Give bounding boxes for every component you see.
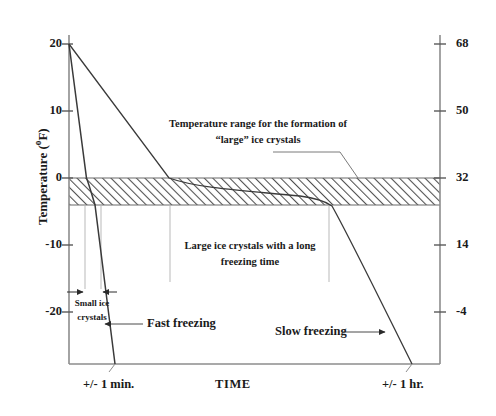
fast-freezing-label: Fast freezing	[147, 316, 216, 331]
chart-canvas	[0, 0, 496, 416]
right-tick-label-50: 50	[456, 103, 469, 118]
freezing-curve-figure: Temperature (oF) 20 10 0 -10 -20 68 50 3…	[0, 0, 496, 416]
left-axis-ticks	[62, 44, 73, 312]
left-tick-label-20: 20	[32, 36, 62, 51]
left-tick-label-minus10: -10	[28, 237, 62, 252]
large-crystals-annotation-line1: Large ice crystals with a long	[150, 240, 350, 252]
band-label-leader	[273, 152, 358, 178]
right-tick-label-14: 14	[456, 237, 469, 252]
band-annotation-line1: Temperature range for the formation of	[140, 118, 376, 130]
large-crystals-annotation-line2: freezing time	[150, 256, 350, 268]
x-axis-right-label: +/- 1 hr.	[382, 377, 424, 392]
x-axis-title: TIME	[215, 377, 251, 392]
x-axis-left-label: +/- 1 min.	[83, 377, 134, 392]
left-tick-label-10: 10	[32, 103, 62, 118]
right-tick-label-68: 68	[456, 36, 469, 51]
small-crystals-annotation-line2: crystals	[64, 312, 120, 323]
left-tick-label-0: 0	[32, 170, 62, 185]
band-annotation-line2: “large” ice crystals	[140, 134, 376, 146]
small-crystals-annotation-line1: Small ice	[64, 298, 120, 309]
x-axis-leaders	[109, 364, 412, 372]
slow-freezing-label: Slow freezing	[275, 324, 347, 339]
right-tick-label-32: 32	[456, 170, 469, 185]
left-tick-label-minus20: -20	[28, 304, 62, 319]
right-tick-label-minus4: -4	[456, 304, 466, 319]
